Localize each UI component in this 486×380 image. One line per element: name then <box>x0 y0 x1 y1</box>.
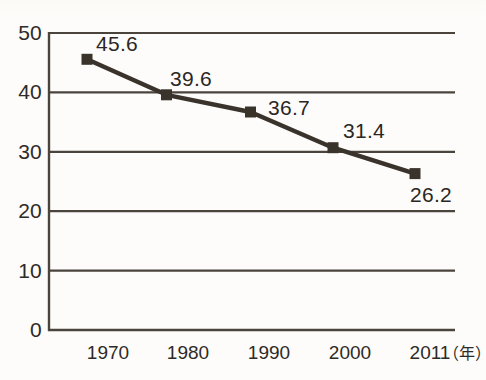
data-marker-1970 <box>82 54 93 65</box>
line-chart: 50 40 30 20 10 0 1970 1980 1990 2000 201… <box>0 0 486 380</box>
x-tick-label-1990: 1990 <box>229 343 309 362</box>
data-label-1980: 39.6 <box>170 68 212 89</box>
data-label-1990: 36.7 <box>268 97 310 118</box>
y-tick-label-10: 10 <box>4 260 42 281</box>
data-label-1970: 45.6 <box>96 33 138 54</box>
data-label-2011: 26.2 <box>410 184 452 205</box>
data-marker-1990 <box>245 107 256 118</box>
data-marker-2011 <box>410 168 421 179</box>
data-label-2000: 31.4 <box>343 120 385 141</box>
x-axis-unit-label: （年） <box>443 346 486 362</box>
y-tick-label-40: 40 <box>4 81 42 102</box>
x-tick-label-1970: 1970 <box>68 343 148 362</box>
y-tick-label-0: 0 <box>4 319 42 340</box>
x-tick-label-2000: 2000 <box>310 343 390 362</box>
y-tick-label-30: 30 <box>4 141 42 162</box>
y-tick-label-20: 20 <box>4 200 42 221</box>
data-marker-1980 <box>161 89 172 100</box>
y-tick-label-50: 50 <box>4 22 42 43</box>
x-tick-label-1980: 1980 <box>148 343 228 362</box>
data-marker-2000 <box>328 142 339 153</box>
